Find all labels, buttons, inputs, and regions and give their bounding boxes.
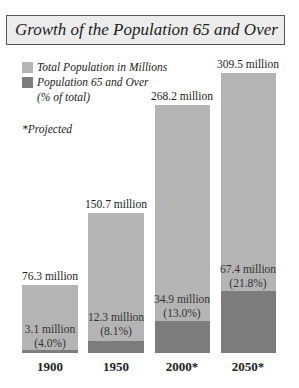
year-1900: 1900: [20, 359, 80, 375]
elderly-percent-2050: (21.8%): [210, 276, 286, 290]
elderly-label-1900: 3.1 million (4.0%): [12, 322, 88, 350]
elderly-percent-1950: (8.1%): [78, 324, 154, 338]
legend-label-elderly: Population 65 and Over: [37, 75, 148, 90]
legend-label-total: Total Population in Millions: [37, 60, 167, 75]
total-label-1950: 150.7 million: [76, 198, 156, 210]
elderly-value-1950: 12.3 million: [78, 310, 154, 324]
chart-title: Growth of the Population 65 and Over: [15, 20, 278, 40]
elderly-percent-1900: (4.0%): [12, 336, 88, 350]
total-label-1900: 76.3 million: [10, 270, 90, 282]
legend-swatch-elderly: [22, 77, 33, 88]
elderly-label-2000: 34.9 million (13.0%): [144, 292, 220, 320]
bar-elderly-1900: [22, 350, 78, 353]
elderly-value-1900: 3.1 million: [12, 322, 88, 336]
legend-item-total: Total Population in Millions: [22, 60, 167, 75]
elderly-label-1950: 12.3 million (8.1%): [78, 310, 154, 338]
bar-elderly-2000: [155, 321, 210, 353]
chart-title-box: Growth of the Population 65 and Over: [6, 15, 285, 45]
bar-elderly-1950: [88, 341, 144, 353]
total-label-2000: 268.2 million: [142, 90, 222, 102]
bar-2050: [221, 73, 276, 353]
year-2050: 2050*: [218, 359, 278, 375]
elderly-value-2050: 67.4 million: [210, 262, 286, 276]
elderly-label-2050: 67.4 million (21.8%): [210, 262, 286, 290]
legend-item-elderly: Population 65 and Over: [22, 75, 167, 90]
year-1950: 1950: [86, 359, 146, 375]
bar-elderly-2050: [221, 291, 276, 353]
elderly-value-2000: 34.9 million: [144, 292, 220, 306]
year-2000: 2000*: [152, 359, 212, 375]
elderly-percent-2000: (13.0%): [144, 306, 220, 320]
legend-swatch-total: [22, 62, 33, 73]
total-label-2050: 309.5 million: [208, 58, 288, 70]
projected-note: *Projected: [22, 123, 72, 135]
